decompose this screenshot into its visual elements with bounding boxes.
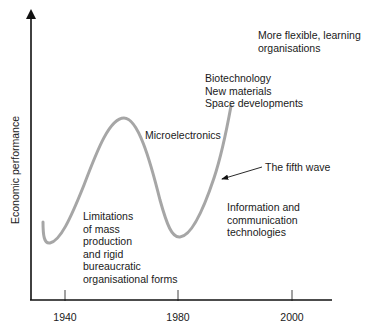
ict-line-3: technologies (227, 226, 300, 239)
ict-line-1: Information and (227, 201, 300, 214)
flexible-line-1: More flexible, learning (258, 29, 361, 42)
ict-line-2: communication (227, 214, 300, 227)
label-ict: Information and communication technologi… (227, 201, 300, 239)
flexible-line-2: organisations (258, 42, 361, 55)
tick-label-1980: 1980 (166, 311, 189, 323)
label-limitations: Limitations of mass production and rigid… (83, 210, 178, 285)
tick-label-2000: 2000 (280, 311, 303, 323)
label-biotech: Biotechnology New materials Space develo… (205, 72, 303, 110)
y-axis-label: Economic performance (9, 116, 21, 224)
limitations-line-6: organisational forms (83, 273, 178, 286)
limitations-line-2: of mass (83, 223, 178, 236)
limitations-line-1: Limitations (83, 210, 178, 223)
limitations-line-5: bureaucratic (83, 260, 178, 273)
limitations-line-4: and rigid (83, 248, 178, 261)
biotech-line-2: New materials (205, 85, 303, 98)
biotech-line-3: Space developments (205, 97, 303, 110)
limitations-line-3: production (83, 235, 178, 248)
label-flexible-orgs: More flexible, learning organisations (258, 29, 361, 54)
label-microelectronics: Microelectronics (145, 129, 221, 142)
y-axis-arrow-icon (26, 9, 36, 19)
fifth-wave-pointer (222, 167, 262, 179)
label-fifth-wave: The fifth wave (265, 161, 330, 174)
tick-label-1940: 1940 (53, 311, 76, 323)
biotech-line-1: Biotechnology (205, 72, 303, 85)
